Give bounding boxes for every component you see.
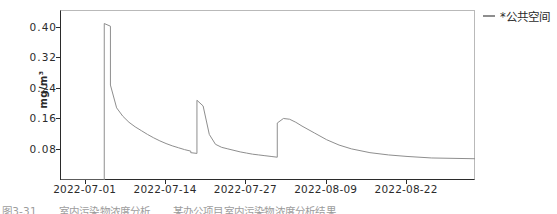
x-tick-label: 2022-07-14 [134,183,197,195]
x-axis-tick-group: 2022-07-012022-07-142022-07-272022-08-09… [0,0,557,214]
x-tick-mark [406,180,407,184]
x-tick-label: 2022-07-01 [53,183,116,195]
caption-figure-number: 图3-31 [2,205,37,214]
x-tick-label: 2022-08-09 [294,183,357,195]
x-tick-mark [85,180,86,184]
figure-caption: 图3-31室内污染物浓度分析某办公项目室内污染物浓度分析结果 [2,203,555,214]
caption-subtext: 某办公项目室内污染物浓度分析结果 [173,205,336,214]
x-tick-mark [165,180,166,184]
chart-legend: *公共空间 [483,8,550,24]
x-tick-label: 2022-08-22 [375,183,438,195]
x-tick-mark [245,180,246,184]
chart-figure: mg/m³ 0.400.320.240.160.08 2022-07-01202… [0,0,557,214]
legend-line-marker [483,15,495,17]
x-tick-mark [326,180,327,184]
caption-text: 室内污染物浓度分析 [59,205,151,214]
legend-item-label: *公共空间 [500,8,550,24]
x-tick-label: 2022-07-27 [214,183,277,195]
